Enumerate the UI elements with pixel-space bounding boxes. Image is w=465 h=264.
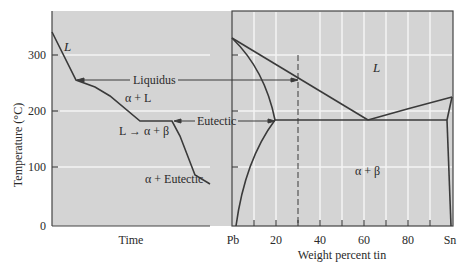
label-alpha-eutectic: α + Eutectic — [145, 172, 203, 186]
xtick-80: 80 — [402, 233, 414, 247]
label-liquid-left: L — [63, 39, 71, 54]
xtick-40: 40 — [314, 233, 326, 247]
xtick-20: 20 — [270, 233, 282, 247]
y-axis-label: Temperature (°C) — [11, 103, 25, 187]
label-eutectic-reaction: L → α + β — [119, 124, 169, 138]
xtick-60: 60 — [358, 233, 370, 247]
ytick-200: 200 — [28, 104, 46, 118]
xtick-pb: Pb — [227, 233, 240, 247]
ytick-100: 100 — [28, 160, 46, 174]
label-alpha-liquid: α + L — [125, 91, 151, 105]
phase-diagram-figure: L Liquidus α + L Eutectic L → α + β α + … — [0, 0, 465, 264]
label-alpha-beta: α + β — [355, 164, 380, 178]
ytick-0: 0 — [40, 219, 46, 233]
ytick-300: 300 — [28, 48, 46, 62]
x-axis-label-weight-percent: Weight percent tin — [298, 248, 386, 262]
label-liquid-right: L — [372, 60, 380, 75]
x-axis-label-time: Time — [119, 233, 144, 247]
xtick-sn: Sn — [444, 233, 457, 247]
label-eutectic: Eutectic — [197, 114, 236, 128]
label-liquidus: Liquidus — [133, 73, 176, 87]
